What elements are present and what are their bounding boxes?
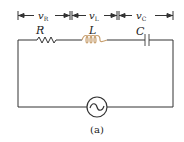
voltage-label-vC: vC <box>136 10 147 22</box>
resistor-label: R <box>35 24 44 37</box>
ac-source-icon <box>87 97 107 117</box>
voltage-label-vL: vL <box>89 10 99 22</box>
resistor-symbol <box>37 37 58 43</box>
capacitor-label: C <box>136 25 145 38</box>
voltage-label-vR: vR <box>38 10 49 22</box>
figure-caption: (a) <box>90 124 104 135</box>
capacitor-symbol <box>145 34 149 46</box>
rlc-circuit-diagram: vR vL vC R L C (a) <box>0 0 184 142</box>
inductor-symbol <box>82 36 107 44</box>
